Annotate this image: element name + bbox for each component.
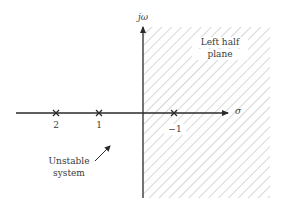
- region-label-line1: Left half: [192, 37, 248, 48]
- region-label-line2: plane: [192, 49, 248, 60]
- s-plane-diagram: [0, 0, 288, 210]
- pole-label-1: 1: [93, 120, 105, 131]
- vertical-axis-label: jω: [133, 12, 153, 23]
- annotation-line1: Unstable: [46, 156, 92, 167]
- unstable-arrow-icon: [95, 146, 110, 161]
- pole-label-minus1: −1: [164, 124, 186, 135]
- horizontal-axis-label: σ: [232, 106, 244, 117]
- pole-label-2: 2: [50, 120, 62, 131]
- annotation-line2: system: [46, 168, 92, 179]
